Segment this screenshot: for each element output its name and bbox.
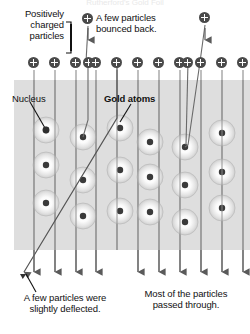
label-bounced-back: A few particles bounced back. [96, 12, 200, 34]
positive-particle-icon [153, 57, 164, 68]
label-gold-atoms: Gold atoms [104, 93, 176, 104]
positive-particle-icon [216, 57, 227, 68]
passed-through-arrows [34, 250, 243, 272]
atom [107, 157, 133, 183]
label-slightly-deflected: A few particles were slightly deflected. [6, 292, 124, 314]
label-passed-through: Most of the particles passed through. [128, 288, 244, 310]
positive-particle-icon [132, 57, 143, 68]
nucleus-dot [43, 127, 50, 134]
deflected-leader-line [26, 274, 36, 292]
diagram-svg [0, 0, 250, 334]
bounced-particle-icon-left [82, 13, 93, 24]
bounced-particle-icon-right [199, 12, 210, 23]
bracket-icon [66, 22, 71, 53]
label-positively-charged-particles: Positively charged particles [0, 8, 64, 41]
atom [172, 172, 198, 198]
positive-particle-icon [237, 57, 248, 68]
positive-particle-icon [90, 57, 101, 68]
atom [172, 209, 198, 235]
positive-particle-icon [28, 57, 39, 68]
positive-particle-icon [182, 57, 193, 68]
atom [107, 198, 133, 224]
label-nucleus: Nucleus [12, 93, 62, 104]
atom [70, 203, 96, 229]
positive-particle-icon [49, 57, 60, 68]
figure-canvas: Rutherford's Gold Foil [0, 0, 250, 334]
positive-particle-icon [195, 57, 206, 68]
positive-particle-icon [70, 57, 81, 68]
positive-particle-icon [111, 57, 122, 68]
